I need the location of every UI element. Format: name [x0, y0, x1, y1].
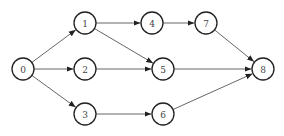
node-label: 5 — [160, 65, 166, 75]
node-5: 5 — [152, 58, 174, 80]
node-label: 4 — [149, 19, 155, 29]
node-label: 0 — [20, 65, 26, 75]
edge-6-to-8 — [173, 74, 252, 110]
node-8: 8 — [252, 58, 274, 80]
edge-7-to-8 — [215, 30, 254, 62]
node-label: 6 — [160, 110, 166, 120]
node-4: 4 — [141, 12, 163, 34]
node-1: 1 — [74, 12, 96, 34]
edge-0-to-1 — [32, 30, 76, 63]
node-label: 2 — [82, 65, 88, 75]
node-2: 2 — [74, 58, 96, 80]
node-0: 0 — [12, 58, 34, 80]
edges — [32, 23, 254, 114]
node-label: 7 — [203, 19, 209, 29]
node-6: 6 — [152, 103, 174, 125]
nodes: 012345678 — [12, 12, 274, 125]
node-7: 7 — [195, 12, 217, 34]
network-diagram: 012345678 — [0, 0, 284, 136]
node-label: 1 — [82, 19, 88, 29]
edge-1-to-5 — [94, 29, 153, 64]
node-label: 3 — [82, 110, 88, 120]
node-label: 8 — [260, 65, 266, 75]
edge-0-to-3 — [32, 75, 76, 107]
node-3: 3 — [74, 103, 96, 125]
